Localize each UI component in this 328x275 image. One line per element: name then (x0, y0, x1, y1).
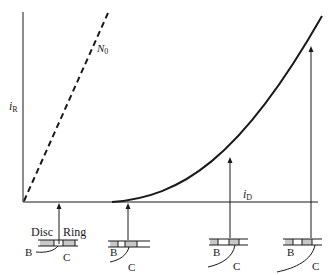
n0-label: N0 (97, 43, 108, 56)
response-curve (112, 16, 322, 202)
stage-4-c-label: C (312, 261, 319, 272)
stage-3-b-label: B (213, 247, 220, 258)
stage-4-b-label: B (287, 247, 294, 258)
n0-dashed-line (24, 13, 108, 201)
arrow-stage-3 (228, 157, 233, 238)
x-axis-label: iD (243, 188, 252, 202)
ring-label: Ring (63, 226, 86, 238)
arrow-stage-2 (126, 203, 131, 240)
stage-3-c-label: C (233, 261, 240, 272)
arrow-stage-1 (57, 203, 62, 244)
stage-1-c-label: C (63, 252, 70, 263)
disc-label: Disc (31, 226, 53, 238)
stage-1-b-label: B (25, 247, 32, 258)
arrow-stage-4 (309, 46, 314, 238)
stage-2-b-label: B (110, 247, 117, 258)
stage-2-c-label: C (128, 262, 135, 273)
electrode-stage-1 (36, 240, 78, 252)
y-axis-label: iR (9, 100, 18, 114)
